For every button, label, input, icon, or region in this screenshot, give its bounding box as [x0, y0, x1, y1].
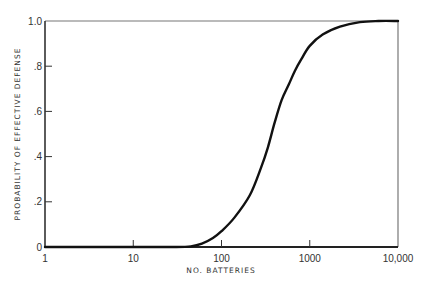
x-tick-label: 10,000: [383, 253, 414, 264]
x-tick-label: 100: [213, 253, 230, 264]
y-tick-label: 1.0: [28, 16, 42, 27]
y-tick-label: 0: [36, 242, 42, 253]
y-tick-label: .6: [34, 106, 43, 117]
x-tick-label: 1: [42, 253, 48, 264]
series-lines: [45, 21, 398, 247]
y-axis-ticks: 0.2.4.6.81.0: [28, 16, 52, 253]
y-tick-label: .2: [34, 196, 43, 207]
y-tick-label: .4: [34, 151, 43, 162]
y-axis-title: PROBABILITY OF EFFECTIVE DEFENSE: [13, 48, 22, 221]
plot-frame: [45, 21, 398, 248]
y-tick-label: .8: [34, 61, 43, 72]
x-axis-ticks: 110100100010,000: [42, 240, 414, 264]
x-axis-title: NO. BATTERIES: [186, 266, 255, 275]
chart: 110100100010,000 0.2.4.6.81.0 NO. BATTER…: [0, 0, 423, 286]
x-tick-label: 10: [128, 253, 140, 264]
series-line: [45, 21, 398, 247]
x-tick-label: 1000: [299, 253, 322, 264]
